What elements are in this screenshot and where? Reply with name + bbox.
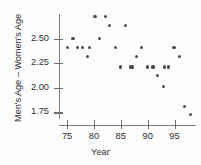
data-point — [146, 65, 149, 68]
data-point — [93, 15, 96, 18]
data-point — [108, 24, 111, 27]
data-point — [131, 65, 134, 68]
data-point — [119, 65, 122, 68]
data-point — [172, 46, 175, 49]
data-points-layer — [0, 0, 201, 165]
data-point — [66, 46, 69, 49]
data-point — [167, 65, 170, 68]
data-point — [124, 24, 127, 27]
data-point — [86, 55, 89, 58]
data-point — [178, 55, 181, 58]
data-point — [156, 74, 159, 77]
data-point — [135, 55, 138, 58]
data-point — [104, 15, 107, 18]
x-axis-title: Year — [0, 147, 201, 157]
data-point — [71, 37, 74, 40]
data-point — [114, 46, 117, 49]
data-point — [189, 113, 192, 116]
data-point — [152, 65, 155, 68]
data-point — [76, 46, 79, 49]
data-point — [162, 85, 165, 88]
data-point — [81, 46, 84, 49]
scatter-plot-figure: Men's Age – Women's Age 2.502.252.001.75… — [0, 0, 201, 165]
data-point — [140, 46, 143, 49]
data-point — [183, 105, 186, 108]
data-point — [88, 46, 91, 49]
data-point — [98, 37, 101, 40]
data-point — [163, 65, 166, 68]
